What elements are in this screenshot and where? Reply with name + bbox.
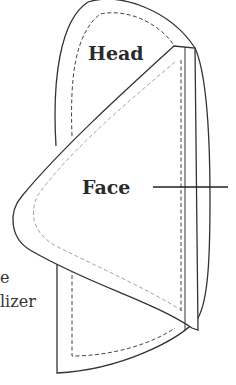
- face-label: Face: [82, 176, 130, 198]
- head-label: Head: [88, 42, 144, 64]
- side-label-line1: e: [0, 268, 9, 287]
- side-label-line2: lizer: [0, 292, 36, 311]
